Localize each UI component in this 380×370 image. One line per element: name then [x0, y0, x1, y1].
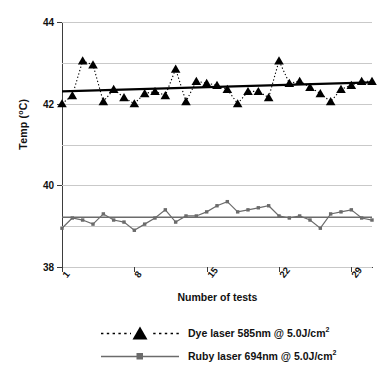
data-point-square	[308, 218, 311, 221]
y-axis-title-tail: C)	[17, 99, 29, 110]
data-point-square	[205, 210, 208, 213]
data-point-square	[226, 200, 229, 203]
data-point-square	[91, 222, 94, 225]
data-point-square	[277, 214, 280, 217]
data-point-square	[81, 218, 84, 221]
chart-root: Temp (oC) 38404244 18152229 Number of te…	[0, 0, 380, 370]
data-point-square	[298, 214, 301, 217]
data-point-square	[319, 227, 322, 230]
data-point-square	[339, 210, 342, 213]
legend-label-dye-sup: 2	[326, 326, 330, 333]
data-point-triangle	[161, 91, 171, 99]
data-point-triangle	[202, 79, 212, 87]
data-point-triangle	[192, 77, 202, 85]
data-point-square	[133, 229, 136, 232]
data-point-triangle	[316, 89, 326, 97]
square-icon	[137, 353, 144, 360]
data-point-triangle	[295, 77, 305, 85]
data-point-triangle	[254, 87, 264, 95]
data-point-square	[71, 216, 74, 219]
data-point-triangle	[88, 60, 98, 68]
legend-label-ruby: Ruby laser 694nm @ 5.0J/cm2	[188, 349, 336, 362]
series-layer	[62, 22, 372, 267]
data-point-square	[164, 208, 167, 211]
data-point-triangle	[243, 87, 253, 95]
x-tick-label: 8	[132, 269, 144, 280]
y-tick-label: 42	[43, 98, 54, 109]
data-point-square	[215, 204, 218, 207]
legend-label-ruby-sup: 2	[332, 349, 336, 356]
data-point-triangle	[264, 93, 274, 101]
data-point-triangle	[357, 77, 367, 85]
data-point-square	[246, 208, 249, 211]
y-tick-label: 44	[43, 17, 54, 28]
series-ruby	[60, 200, 373, 232]
data-point-square	[350, 208, 353, 211]
chart-legend: Dye laser 585nm @ 5.0J/cm2 Ruby laser 69…	[0, 322, 380, 368]
series-dye	[57, 56, 377, 107]
data-point-square	[122, 220, 125, 223]
data-point-triangle	[336, 85, 346, 93]
data-point-square	[174, 220, 177, 223]
plot-area: 38404244	[62, 22, 372, 267]
data-point-triangle	[367, 77, 377, 85]
x-axis-title: Number of tests	[62, 291, 373, 303]
data-point-square	[60, 227, 63, 230]
data-point-square	[360, 216, 363, 219]
legend-item-ruby: Ruby laser 694nm @ 5.0J/cm2	[0, 345, 380, 368]
data-point-square	[370, 218, 373, 221]
data-point-square	[143, 222, 146, 225]
data-point-triangle	[212, 81, 222, 89]
data-point-triangle	[181, 97, 191, 105]
data-point-square	[236, 210, 239, 213]
data-point-triangle	[274, 56, 284, 64]
x-tick-label: 1	[60, 269, 72, 280]
data-point-square	[102, 212, 105, 215]
data-point-square	[257, 206, 260, 209]
data-point-square	[184, 214, 187, 217]
legend-key-dye	[101, 322, 179, 345]
legend-key-ruby	[101, 345, 179, 368]
data-point-triangle	[285, 79, 295, 87]
data-point-square	[153, 216, 156, 219]
y-axis-title-main: Temp (	[17, 115, 29, 150]
legend-label-dye: Dye laser 585nm @ 5.0J/cm2	[188, 326, 329, 339]
legend-label-ruby-text: Ruby laser 694nm @ 5.0J/cm	[188, 350, 332, 362]
data-point-square	[329, 212, 332, 215]
legend-item-dye: Dye laser 585nm @ 5.0J/cm2	[0, 322, 380, 345]
y-axis-title: Temp (oC)	[17, 79, 30, 169]
legend-label-dye-text: Dye laser 585nm @ 5.0J/cm	[188, 327, 326, 339]
data-point-triangle	[99, 97, 109, 105]
data-point-triangle	[78, 56, 88, 64]
data-point-square	[288, 216, 291, 219]
degree-symbol: o	[17, 110, 24, 114]
data-point-square	[195, 214, 198, 217]
data-point-square	[112, 218, 115, 221]
y-tick-label: 40	[43, 180, 54, 191]
data-point-square	[267, 204, 270, 207]
y-tick-label: 38	[43, 262, 54, 273]
data-point-triangle	[171, 64, 181, 72]
